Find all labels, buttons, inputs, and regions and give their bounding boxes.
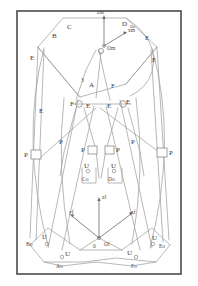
platform-vertex-A-label: A: [89, 81, 94, 89]
universal-base-right-bot-label: U: [127, 249, 132, 257]
center-E-b-label: E: [107, 102, 111, 110]
prismatic-left-outer-label: P: [24, 151, 28, 159]
center-F-left-label: F: [70, 100, 74, 108]
platform-vertex-D-subscript: Do: [130, 24, 135, 29]
base-vertex-Bo-label: Bo: [26, 241, 33, 247]
center-E-a-label: E: [86, 102, 90, 110]
yf-axis-label: yf: [69, 209, 74, 215]
universal-base-left-bot-label: U: [65, 250, 70, 258]
xf-axis-label: xf: [131, 209, 136, 215]
prismatic-left-inner-label: P: [81, 146, 85, 154]
prismatic-joint-right-inner: [105, 146, 114, 154]
leg-number-label: 3: [81, 77, 84, 83]
prismatic-extra-right-label: P: [131, 138, 135, 146]
prismatic-right-inner-label: P: [116, 146, 120, 154]
figure-canvas: zm xm Om C B D Do E E E 3 A F F E E E E …: [0, 0, 198, 286]
prismatic-joint-left-inner: [88, 146, 97, 154]
prismatic-right-outer-label: P: [169, 149, 173, 157]
universal-mid-left-label: U: [84, 162, 89, 170]
center-E-d-label: E: [39, 107, 43, 115]
platform-vertex-B-label: B: [52, 32, 57, 40]
base-vertex-Do-label: Do: [108, 176, 115, 182]
Om-origin-label: Om: [107, 45, 116, 51]
fixed-frame-zero-label: 0: [93, 243, 96, 249]
prismatic-joint-right-outer: [157, 148, 167, 157]
center-E-c-label: E: [126, 98, 130, 106]
universal-base-right-top-label: U: [152, 234, 157, 242]
zm-axis-label: zm: [97, 9, 104, 15]
base-vertex-Ao-label: Ao: [56, 263, 63, 269]
kinematic-diagram-svg: zm xm Om C B D Do E E E 3 A F F E E E E …: [0, 0, 198, 286]
base-vertex-Fo-label: Fo: [131, 263, 137, 269]
platform-vertex-D-label: D: [122, 20, 127, 28]
platform-vertex-E-left-label: E: [30, 54, 34, 62]
prismatic-joint-left-outer: [31, 150, 41, 159]
universal-base-left-top-label: U: [42, 233, 47, 241]
platform-vertex-C-label: C: [67, 23, 72, 31]
zf-axis-label: zf: [102, 194, 106, 200]
platform-vertex-E2-label: E: [152, 56, 156, 64]
platform-vertex-E1-label: E: [145, 34, 149, 42]
base-vertex-Eo-label: Eo: [159, 243, 165, 249]
Of-origin-label: Of: [104, 241, 110, 247]
universal-mid-right-label: U: [111, 162, 116, 170]
center-F-right-label: F: [111, 82, 115, 90]
prismatic-extra-left-label: P: [59, 138, 63, 146]
base-vertex-Co-label: Co: [82, 176, 89, 182]
